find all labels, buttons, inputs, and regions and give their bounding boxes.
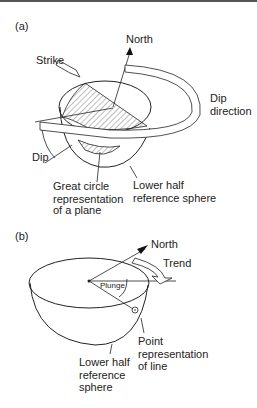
panel-a-diagram	[35, 47, 200, 182]
north-arrowhead-a	[126, 47, 133, 55]
dip-direction-label-1: Dip	[210, 92, 227, 104]
north-label-b: North	[151, 238, 178, 250]
great-circle-label-1: Great circle	[53, 180, 109, 192]
lower-half-label-a-2: reference sphere	[133, 192, 216, 204]
great-circle-label-3: of a plane	[53, 204, 101, 216]
lower-half-label-b-2: reference	[79, 369, 125, 381]
north-label-a: North	[126, 33, 153, 45]
panel-a-label: (a)	[15, 20, 28, 32]
plunge-label: Plunge	[100, 281, 125, 290]
dip-direction-label-2: direction	[210, 105, 252, 117]
dip-label: Dip	[32, 151, 49, 163]
lower-half-label-b-1: Lower half	[79, 356, 130, 368]
trend-label: Trend	[163, 257, 191, 269]
strike-label: Strike	[36, 54, 64, 66]
point-label-2: representation	[138, 348, 208, 360]
lower-half-label-b-3: sphere	[79, 381, 113, 393]
point-label-3: of line	[138, 360, 167, 372]
point-label-1: Point	[138, 335, 163, 347]
panel-b-label: (b)	[15, 230, 28, 242]
lower-half-label-a-1: Lower half	[133, 179, 184, 191]
